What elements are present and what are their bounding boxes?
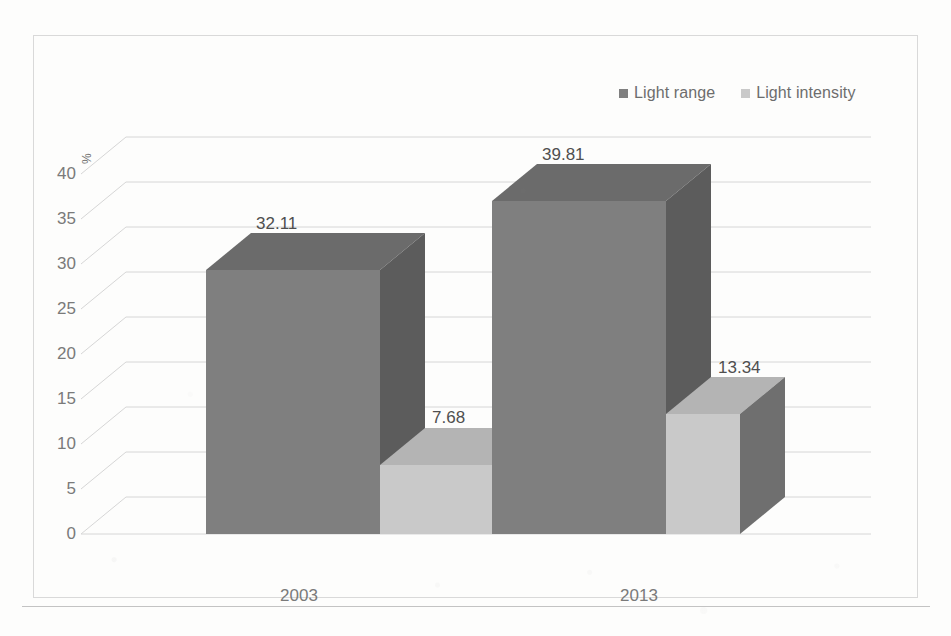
x-category-label-2013: 2013: [579, 586, 699, 606]
bar-2013-light-intensity[interactable]: [666, 377, 785, 534]
data-label-2013-light-intensity: 13.34: [718, 358, 761, 378]
gridline-30: [81, 227, 871, 264]
y-tick-label-35: 35: [34, 209, 76, 229]
y-tick-label-0: 0: [34, 524, 76, 544]
y-tick-label-25: 25: [34, 299, 76, 319]
chart-frame: Light range Light intensity: [33, 35, 918, 598]
gridline-25: [81, 272, 871, 309]
y-tick-label-30: 30: [34, 254, 76, 274]
y-tick-label-40: 40: [34, 164, 76, 184]
gridline-20: [81, 317, 871, 354]
data-label-2003-light-range: 32.11: [256, 214, 297, 234]
bar-front-face: [492, 201, 666, 534]
scanned-page: Light range Light intensity: [0, 0, 951, 636]
y-tick-label-10: 10: [34, 434, 76, 454]
gridline-40: [81, 137, 871, 174]
data-label-2013-light-range: 39.81: [542, 145, 585, 165]
data-label-2003-light-intensity: 7.68: [432, 408, 465, 428]
y-tick-label-15: 15: [34, 389, 76, 409]
gridline-35: [81, 182, 871, 219]
y-tick-label-5: 5: [34, 479, 76, 499]
page-edge-line: [22, 606, 930, 607]
plot-area: % 40 35 30 25 20 15 10 5 0 2003 2013 32.…: [34, 36, 919, 599]
y-axis-title: %: [80, 153, 94, 164]
bar-front-face: [206, 270, 380, 534]
x-category-label-2003: 2003: [239, 586, 359, 606]
y-tick-label-20: 20: [34, 344, 76, 364]
bar-front-face: [666, 414, 740, 534]
plot-svg: [34, 36, 919, 599]
